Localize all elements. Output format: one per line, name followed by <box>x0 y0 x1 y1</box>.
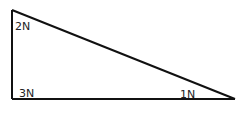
label-bottom-left: 3N <box>19 87 34 100</box>
hypotenuse <box>12 10 235 99</box>
label-bottom-right: 1N <box>180 88 195 101</box>
triangle-diagram: 2N 3N 1N <box>0 0 246 113</box>
label-top-left: 2N <box>15 20 30 33</box>
